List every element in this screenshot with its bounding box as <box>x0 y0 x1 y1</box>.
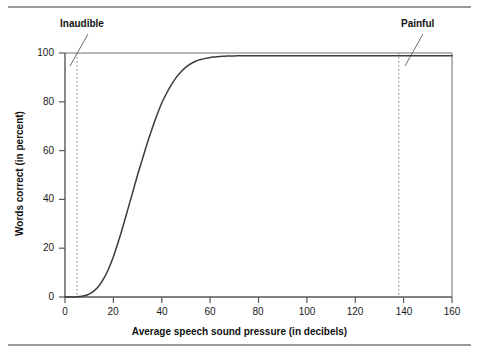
speech-intelligibility-curve <box>65 56 452 297</box>
x-axis-title: Average speech sound pressure (in decibe… <box>0 326 479 337</box>
x-axis-ticks <box>65 297 452 303</box>
inaudible-leader-line <box>70 34 88 66</box>
speech-intelligibility-chart <box>0 0 479 358</box>
y-tick-label-80: 80 <box>26 96 54 107</box>
y-axis-ticks <box>59 53 65 297</box>
painful-leader-line <box>405 34 423 66</box>
x-tick-label-60: 60 <box>190 306 230 317</box>
x-tick-label-40: 40 <box>142 306 182 317</box>
annotation-label-painful: Painful <box>401 18 434 29</box>
x-tick-label-140: 140 <box>384 306 424 317</box>
y-tick-label-20: 20 <box>26 242 54 253</box>
y-tick-label-100: 100 <box>26 47 54 58</box>
x-tick-label-120: 120 <box>335 306 375 317</box>
y-tick-label-60: 60 <box>26 145 54 156</box>
x-tick-label-20: 20 <box>93 306 133 317</box>
y-tick-label-0: 0 <box>26 291 54 302</box>
x-tick-label-100: 100 <box>287 306 327 317</box>
y-tick-label-40: 40 <box>26 193 54 204</box>
annotation-label-inaudible: Inaudible <box>60 18 104 29</box>
figure-container: 100 80 60 40 20 0 0 20 40 60 80 100 120 … <box>0 0 479 358</box>
y-axis-title: Words correct (in percent) <box>14 99 25 249</box>
x-tick-label-80: 80 <box>238 306 278 317</box>
x-tick-label-160: 160 <box>432 306 472 317</box>
plot-frame <box>65 53 452 297</box>
x-tick-label-0: 0 <box>45 306 85 317</box>
